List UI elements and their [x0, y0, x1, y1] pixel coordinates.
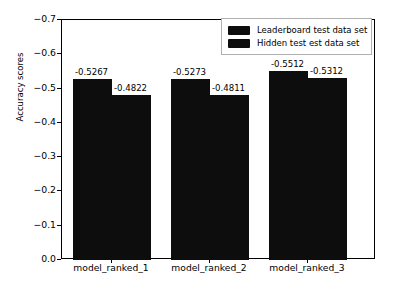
legend: Leaderboard test data set Hidden test es… [221, 18, 372, 55]
legend-label: Hidden test est data set [257, 38, 359, 48]
bar-value-label: -0.5273 [164, 67, 215, 77]
bar [112, 95, 151, 260]
x-tick-label: model_ranked_3 [247, 262, 367, 273]
bar [308, 78, 347, 260]
y-tick-label: −0.4 [18, 116, 56, 127]
plot-area [61, 19, 375, 259]
bar [171, 79, 210, 260]
bar [269, 71, 308, 260]
bar-chart-figure: Accuracy scores −0.7−0.6−0.5−0.4−0.3−0.2… [0, 0, 395, 284]
legend-swatch-icon [228, 26, 250, 35]
bar-value-label: -0.4811 [203, 83, 254, 93]
y-tick-label: −0.1 [18, 219, 56, 230]
legend-item-hidden: Hidden test est data set [228, 37, 365, 49]
y-tick-mark [57, 259, 61, 260]
y-tick-label: −0.2 [18, 184, 56, 195]
legend-item-leaderboard: Leaderboard test data set [228, 24, 365, 36]
bar-value-label: -0.4822 [105, 83, 156, 93]
legend-swatch-icon [228, 39, 250, 48]
y-tick-label: −0.6 [18, 47, 56, 58]
bar [73, 79, 112, 260]
y-tick-label: −0.3 [18, 150, 56, 161]
y-tick-label: −0.5 [18, 82, 56, 93]
bar-value-label: -0.5312 [301, 66, 352, 76]
bar [210, 95, 249, 260]
legend-label: Leaderboard test data set [257, 25, 367, 35]
y-tick-label: −0.7 [18, 13, 56, 24]
bar-value-label: -0.5267 [66, 67, 117, 77]
